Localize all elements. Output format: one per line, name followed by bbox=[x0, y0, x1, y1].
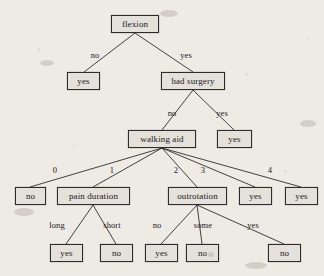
edge-label: 3 bbox=[201, 165, 205, 175]
edge-label: 1 bbox=[110, 165, 114, 175]
tree-edge bbox=[93, 148, 162, 187]
edge-label: yes bbox=[180, 50, 192, 60]
edge-label: short bbox=[103, 220, 121, 230]
tree-edge bbox=[30, 148, 162, 187]
node-label: yes bbox=[60, 249, 72, 258]
decision-node-n7: outrotation bbox=[168, 187, 227, 205]
decision-node-n6: pain duration bbox=[57, 187, 130, 205]
leaf-node-n5: no bbox=[15, 187, 46, 205]
decision-node-n0: flexion bbox=[111, 15, 159, 33]
edge-label: some bbox=[194, 220, 212, 230]
leaf-node-n1: yes bbox=[67, 72, 100, 90]
edge-label: no bbox=[91, 50, 100, 60]
node-label: yes bbox=[77, 77, 89, 86]
tree-edge bbox=[193, 90, 234, 130]
edge-label: long bbox=[49, 220, 65, 230]
edge-label: 2 bbox=[174, 165, 178, 175]
node-label: no bbox=[280, 249, 289, 258]
leaf-node-n8: yes bbox=[239, 187, 272, 205]
edge-label: no bbox=[168, 108, 177, 118]
decision-node-n2: had surgery bbox=[161, 72, 225, 90]
edge-label: 0 bbox=[53, 165, 57, 175]
node-label: flexion bbox=[122, 20, 148, 29]
node-label: yes bbox=[155, 249, 167, 258]
node-label: no bbox=[26, 192, 35, 201]
node-label: no bbox=[112, 249, 121, 258]
leaf-node-n12: yes bbox=[145, 244, 178, 262]
node-label: yes bbox=[249, 192, 261, 201]
node-label: no bbox=[198, 249, 207, 258]
edge-label: no bbox=[153, 220, 162, 230]
edge-label: yes bbox=[247, 220, 259, 230]
leaf-node-n14: no bbox=[268, 244, 301, 262]
node-label: yes bbox=[228, 135, 240, 144]
edge-label: yes bbox=[216, 108, 228, 118]
tree-edge bbox=[162, 90, 193, 130]
leaf-node-n13: no bbox=[186, 244, 219, 262]
leaf-node-n11: no bbox=[100, 244, 133, 262]
node-label: had surgery bbox=[171, 77, 214, 86]
tree-edge bbox=[162, 148, 197, 187]
node-label: pain duration bbox=[69, 192, 118, 201]
edge-label: 4 bbox=[268, 165, 272, 175]
leaf-node-n10: yes bbox=[50, 244, 83, 262]
decision-node-n3: walking aid bbox=[128, 130, 196, 148]
node-label: walking aid bbox=[140, 135, 183, 144]
tree-edge bbox=[66, 205, 93, 244]
node-label: yes bbox=[295, 192, 307, 201]
leaf-node-n9: yes bbox=[285, 187, 318, 205]
node-label: outrotation bbox=[177, 192, 218, 201]
tree-edge bbox=[161, 205, 197, 244]
leaf-node-n4: yes bbox=[217, 130, 252, 148]
tree-edge bbox=[162, 148, 301, 187]
